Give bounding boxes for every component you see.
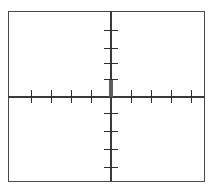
x-axis-tick-x-neg-2 (71, 90, 72, 103)
x-axis-tick-x-pos-3 (171, 90, 172, 103)
y-axis-tick-y-neg-4 (104, 167, 118, 168)
y-axis-tick-y-pos-2 (104, 63, 118, 64)
x-axis-tick-x-pos-2 (151, 90, 152, 103)
x-axis-tick-x-pos-1 (131, 90, 132, 103)
y-axis-tick-y-neg-3 (104, 149, 118, 150)
x-axis-tick-x-neg-3 (51, 90, 52, 103)
x-axis-line (8, 96, 205, 98)
y-axis-emphasized-segment (109, 80, 113, 97)
y-axis-tick-y-pos-4 (104, 30, 118, 31)
y-axis-tick-y-pos-3 (104, 48, 118, 49)
x-axis-tick-x-pos-4 (191, 90, 192, 103)
x-axis-tick-x-neg-4 (31, 90, 32, 103)
x-axis-tick-x-neg-1 (91, 90, 92, 103)
y-axis-tick-y-neg-2 (104, 131, 118, 132)
coordinate-plane-figure (0, 0, 214, 191)
y-axis-tick-y-neg-1 (104, 113, 118, 114)
